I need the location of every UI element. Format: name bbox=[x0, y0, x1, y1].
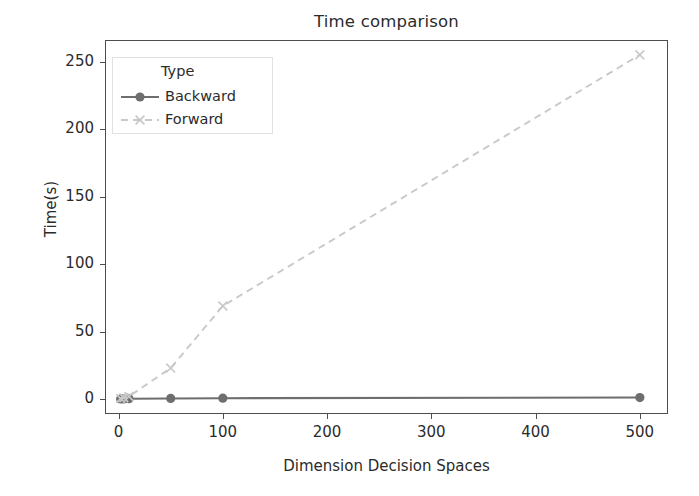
figure-canvas: Time comparison 050100150200250 01002003… bbox=[0, 0, 699, 496]
y-tick-label: 250 bbox=[36, 52, 94, 70]
legend-sample-forward bbox=[119, 108, 161, 132]
x-tick-mark bbox=[327, 414, 328, 419]
legend-sample-backward bbox=[119, 85, 161, 109]
y-axis-label: Time(s) bbox=[42, 149, 60, 269]
x-tick-mark bbox=[223, 414, 224, 419]
series-line-backward bbox=[121, 398, 640, 399]
legend-label-forward: Forward bbox=[165, 111, 223, 127]
x-tick-label: 200 bbox=[297, 423, 357, 441]
legend-box: Type Backward Forward bbox=[112, 57, 273, 134]
x-tick-mark bbox=[640, 414, 641, 419]
data-point-backward bbox=[218, 394, 227, 403]
x-tick-label: 0 bbox=[89, 423, 149, 441]
x-tick-mark bbox=[431, 414, 432, 419]
data-point-forward bbox=[218, 302, 227, 311]
x-tick-label: 400 bbox=[506, 423, 566, 441]
data-point-backward bbox=[635, 393, 644, 402]
legend-item-backward[interactable]: Backward bbox=[113, 85, 274, 109]
legend-title: Type bbox=[161, 63, 194, 79]
legend-label-backward: Backward bbox=[165, 88, 236, 104]
chart-title: Time comparison bbox=[105, 12, 668, 31]
x-tick-mark bbox=[119, 414, 120, 419]
y-tick-label: 50 bbox=[36, 322, 94, 340]
x-tick-mark bbox=[536, 414, 537, 419]
legend-item-forward[interactable]: Forward bbox=[113, 108, 274, 132]
x-tick-label: 100 bbox=[193, 423, 253, 441]
legend-marker-backward bbox=[135, 92, 144, 101]
x-tick-label: 500 bbox=[610, 423, 670, 441]
x-tick-label: 300 bbox=[401, 423, 461, 441]
x-axis-label: Dimension Decision Spaces bbox=[105, 457, 668, 475]
data-point-forward bbox=[166, 364, 175, 373]
data-point-backward bbox=[166, 394, 175, 403]
data-point-forward bbox=[635, 50, 644, 59]
y-tick-label: 0 bbox=[36, 389, 94, 407]
y-tick-label: 200 bbox=[36, 119, 94, 137]
